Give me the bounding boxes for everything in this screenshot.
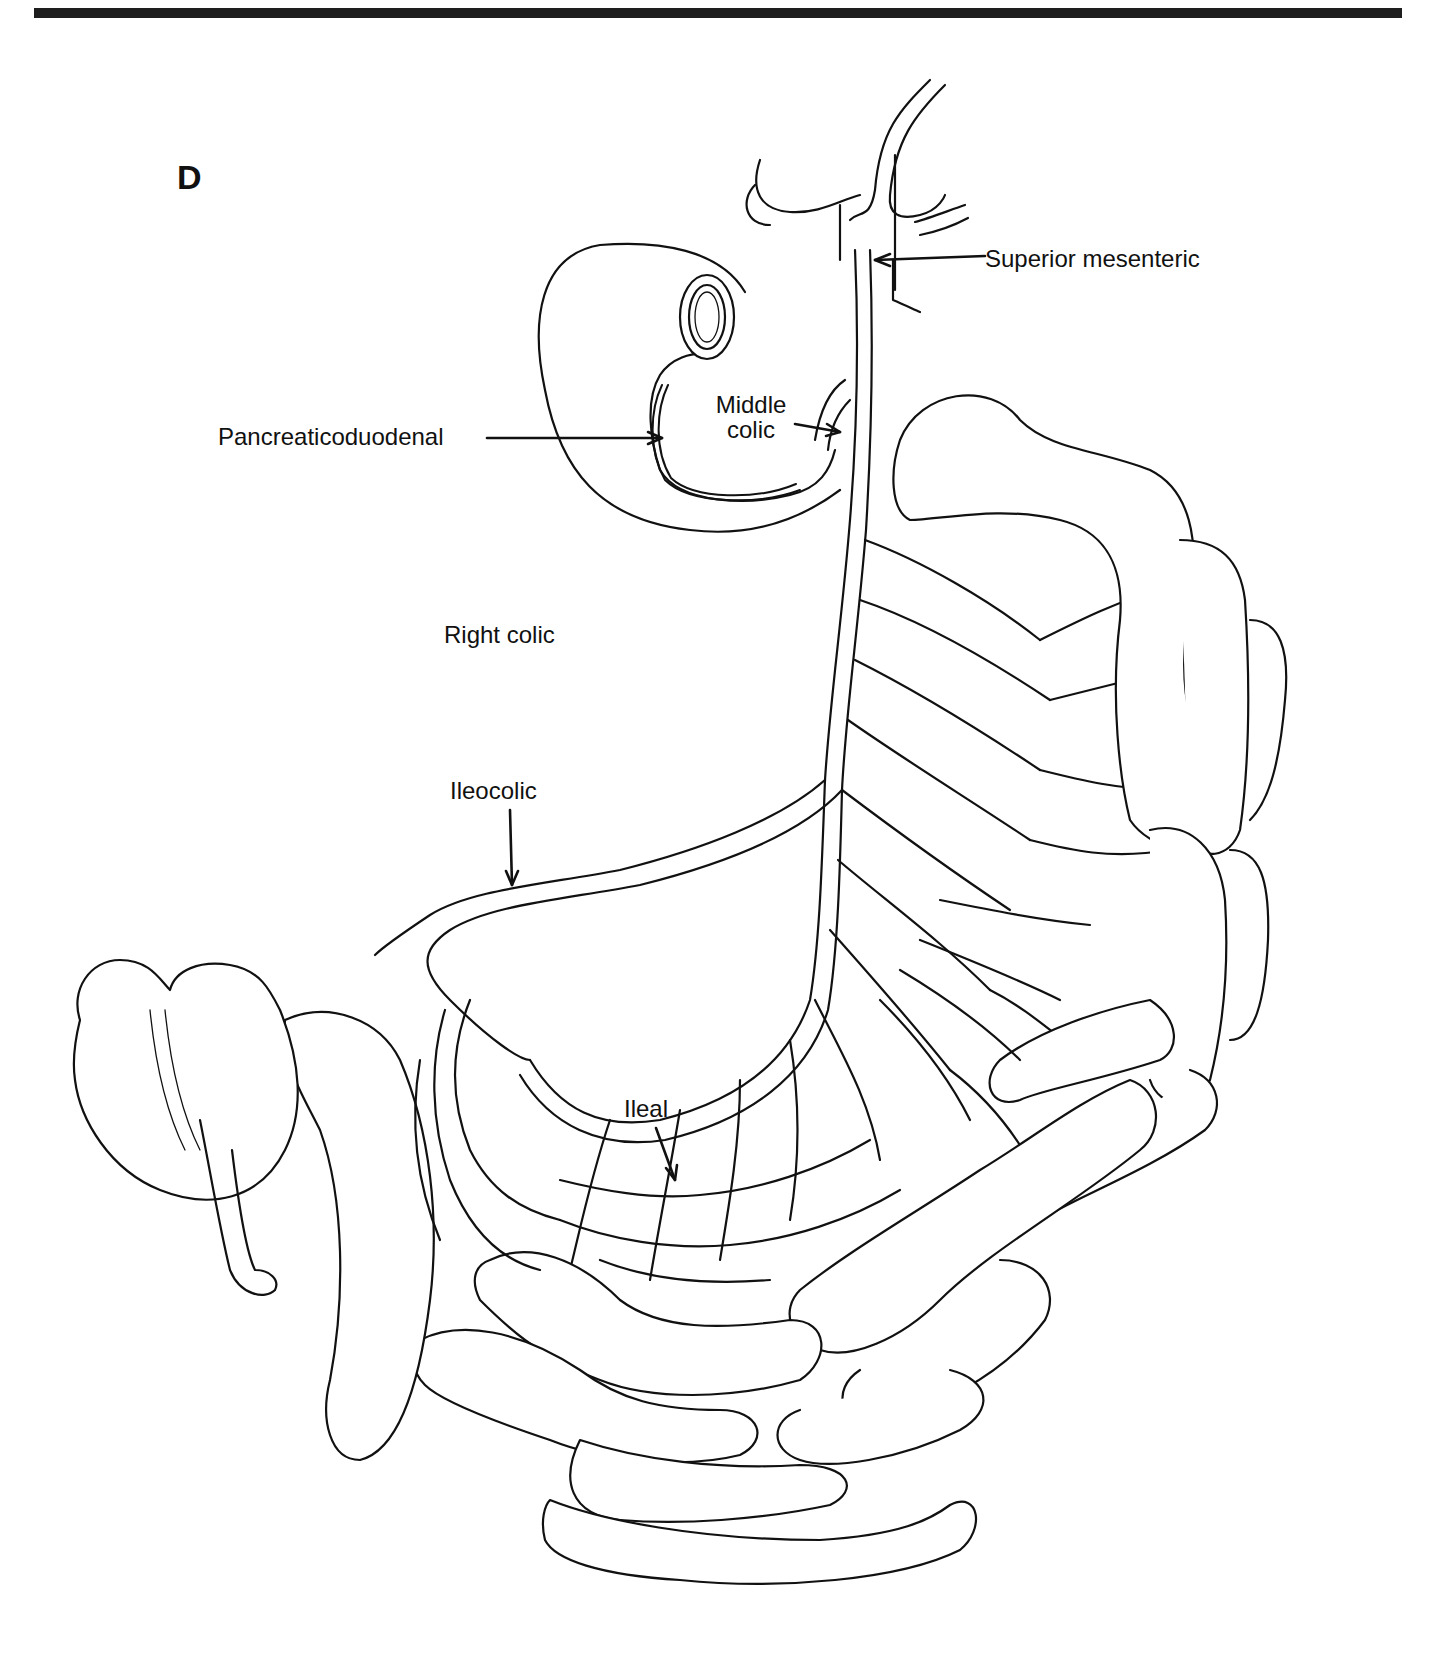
cecum-appendix xyxy=(74,960,434,1460)
duodenum xyxy=(539,244,840,532)
bowel-loops-right xyxy=(778,395,1287,1463)
label-superior-mesenteric: Superior mesenteric xyxy=(985,246,1200,271)
label-middle-colic-line2: colic xyxy=(706,417,796,442)
label-pancreaticoduodenal: Pancreaticoduodenal xyxy=(218,424,444,449)
label-ileal: Ileal xyxy=(624,1096,668,1121)
upper-vessels xyxy=(747,80,968,312)
label-middle-colic-line1: Middle xyxy=(706,392,796,417)
label-middle-colic: Middle colic xyxy=(706,392,796,442)
mesenteric-vessels-illustration xyxy=(0,0,1436,1666)
ileocolic-artery xyxy=(375,780,842,1060)
label-right-colic: Right colic xyxy=(444,622,555,647)
label-ileocolic: Ileocolic xyxy=(450,778,537,803)
